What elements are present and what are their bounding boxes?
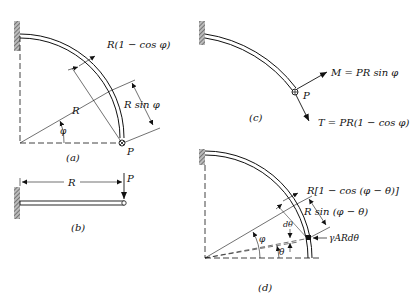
label-angle-theta: θ	[279, 247, 285, 257]
label-side-dim: R sin (φ − θ)	[303, 206, 368, 217]
label-side-dim: R sin φ	[123, 99, 160, 110]
label-element-angle: dθ	[283, 220, 293, 229]
label-radius: R	[71, 105, 80, 116]
wall-support-icon	[14, 187, 20, 219]
caption-d: (d)	[258, 282, 272, 293]
wall-support-icon	[14, 21, 20, 51]
wall-support-icon	[199, 21, 205, 45]
panel-a: R(1 − cos φ) R sin φ R φ P (a)	[14, 21, 170, 163]
wall-support-icon	[199, 149, 205, 165]
label-load: P	[126, 146, 134, 157]
figure-canvas: R(1 − cos φ) R sin φ R φ P (a) R P (b) M…	[0, 0, 414, 306]
caption-c: (c)	[249, 112, 263, 123]
label-angle-phi: φ	[259, 234, 266, 244]
label-moment: M = PR sin φ	[330, 67, 398, 78]
label-element-load: γARdθ	[329, 233, 359, 243]
label-top-dim: R(1 − cos φ)	[106, 39, 170, 50]
label-torque: T = PR(1 − cos φ)	[318, 117, 410, 128]
label-top-dim: R[1 − cos (φ − θ)]	[306, 185, 399, 196]
panel-d: R[1 − cos (φ − θ)] R sin (φ − θ) dθ γARd…	[199, 149, 399, 293]
panel-c: M = PR sin φ T = PR(1 − cos φ) P (c)	[199, 21, 410, 128]
moment-arrow-icon	[297, 72, 327, 89]
caption-a: (a)	[66, 152, 80, 163]
panel-b: R P (b)	[14, 173, 134, 233]
label-span: R	[67, 177, 76, 188]
caption-b: (b)	[71, 222, 85, 233]
label-load: P	[126, 173, 134, 184]
label-angle: φ	[60, 126, 67, 136]
label-load: P	[302, 90, 310, 101]
